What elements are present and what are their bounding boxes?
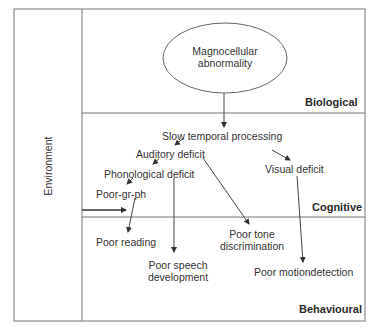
environment-label: Environment <box>42 130 54 202</box>
node-text: abnormality <box>175 57 275 69</box>
node-auditory-deficit: Auditory deficit <box>136 148 205 160</box>
node-poor-reading: Poor reading <box>96 236 156 248</box>
node-text: development <box>138 271 218 283</box>
arrow-grph-to-reading <box>128 198 135 232</box>
layer-label-behavioural: Behavioural <box>299 303 362 315</box>
node-poor-tone-discrimination: Poor tone discrimination <box>212 228 292 252</box>
node-text: Poor tone <box>212 228 292 240</box>
causal-model-diagram: Environment Magnocellular abnormality Bi… <box>0 0 376 332</box>
node-slow-temporal-processing: Slow temporal processing <box>162 130 282 142</box>
node-phonological-deficit: Phonological deficit <box>104 168 194 180</box>
arrow-visual-to-motion <box>297 176 303 262</box>
node-text: Magnocellular <box>175 45 275 57</box>
node-poor-motion-detection: Poor motiondetection <box>254 266 353 278</box>
node-magnocellular-abnormality: Magnocellular abnormality <box>175 45 275 69</box>
layer-label-cognitive: Cognitive <box>312 201 362 213</box>
node-visual-deficit: Visual deficit <box>265 163 324 175</box>
layer-label-biological: Biological <box>305 96 358 108</box>
node-text: Poor speech <box>138 259 218 271</box>
arrow-auditory-to-tone <box>203 158 249 224</box>
node-text: discrimination <box>212 240 292 252</box>
node-poor-gr-ph: Poor-gr-ph <box>96 188 146 200</box>
node-poor-speech-development: Poor speech development <box>138 259 218 283</box>
arrow-slow-to-visual <box>272 150 290 160</box>
